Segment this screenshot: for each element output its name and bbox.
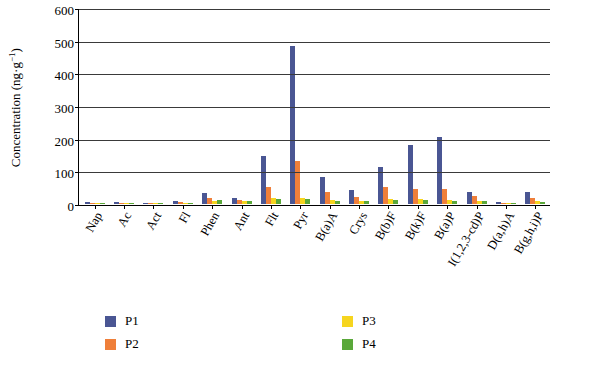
x-tick-label: B(b)F xyxy=(373,210,399,242)
y-axis-title-exponent: −1 xyxy=(6,52,16,62)
legend-label: P4 xyxy=(362,336,376,352)
x-label-cell: Act xyxy=(138,208,167,300)
y-tick-label: 600 xyxy=(55,4,75,17)
legend-item: P2 xyxy=(105,336,139,352)
x-tick-label: Act xyxy=(144,210,164,232)
gridline xyxy=(79,9,550,10)
bar xyxy=(511,203,516,204)
x-tick-label: Crys xyxy=(347,210,370,237)
legend-swatch xyxy=(105,316,116,327)
y-tick-mark xyxy=(75,107,79,108)
y-tick-mark xyxy=(75,140,79,141)
plot-area: 0100200300400500600 xyxy=(78,10,550,206)
legend-swatch xyxy=(342,316,353,327)
bar xyxy=(364,201,369,204)
bar xyxy=(247,201,252,204)
bar xyxy=(188,203,193,204)
y-tick-mark xyxy=(75,205,79,206)
bar xyxy=(540,202,545,204)
y-tick-label: 0 xyxy=(68,200,75,213)
gridline xyxy=(79,107,550,108)
x-label-cell: Fl xyxy=(167,208,196,300)
y-tick-mark xyxy=(75,172,79,173)
y-tick-mark xyxy=(75,74,79,75)
x-label-cell: Flt xyxy=(256,208,285,300)
x-label-cell: Nap xyxy=(79,208,108,300)
legend-swatch xyxy=(342,339,353,350)
y-axis-title: Concentration (ng·g−1) xyxy=(2,0,28,215)
bar xyxy=(158,203,163,204)
x-label-cell: Ac xyxy=(108,208,137,300)
bar xyxy=(276,199,281,204)
gridline xyxy=(79,74,550,75)
x-tick-label: B(a)A xyxy=(314,210,340,243)
gridline xyxy=(79,140,550,141)
bar xyxy=(335,201,340,204)
x-label-cell: Pyr xyxy=(285,208,314,300)
y-axis-title-text: Concentration (ng·g xyxy=(8,62,23,167)
chart-legend: P1P2P3P4 xyxy=(105,313,525,359)
x-label-cell: B(k)F xyxy=(403,208,432,300)
x-label-cell: Crys xyxy=(344,208,373,300)
bar xyxy=(129,203,134,204)
legend-label: P3 xyxy=(362,313,376,329)
x-tick-label: B(a)P xyxy=(432,210,457,242)
y-tick-mark xyxy=(75,9,79,10)
x-label-cell: B(a)A xyxy=(315,208,344,300)
legend-swatch xyxy=(105,339,116,350)
plot-area-wrapper: 0100200300400500600 xyxy=(78,10,550,206)
legend-label: P2 xyxy=(125,336,139,352)
bar xyxy=(100,203,105,204)
gridline xyxy=(79,172,550,173)
y-axis-title-tail: ) xyxy=(8,48,23,52)
y-tick-mark xyxy=(75,42,79,43)
x-tick-label: Phen xyxy=(199,210,222,238)
x-tick-label: Pyr xyxy=(291,210,311,231)
bar xyxy=(393,200,398,204)
bar xyxy=(305,199,310,204)
y-tick-label: 500 xyxy=(55,36,75,49)
x-label-cell: D(a,h)A xyxy=(491,208,520,300)
bar xyxy=(482,201,487,204)
x-tick-label: B(k)F xyxy=(403,210,429,242)
chart-figure: Concentration (ng·g−1) 01002003004005006… xyxy=(0,0,589,367)
x-label-cell: Ant xyxy=(226,208,255,300)
x-tick-label: Fl xyxy=(177,210,193,225)
x-tick-label: Ac xyxy=(116,210,134,229)
y-tick-label: 200 xyxy=(55,134,75,147)
bar xyxy=(217,200,222,204)
y-tick-label: 400 xyxy=(55,69,75,82)
legend-item: P4 xyxy=(342,336,376,352)
gridline xyxy=(79,42,550,43)
x-label-cell: B(b)F xyxy=(373,208,402,300)
x-tick-label: Flt xyxy=(263,210,281,228)
x-tick-label: Nap xyxy=(83,210,104,234)
x-label-cell: Phen xyxy=(197,208,226,300)
legend-item: P3 xyxy=(342,313,376,329)
y-tick-label: 300 xyxy=(55,102,75,115)
legend-item: P1 xyxy=(105,313,139,329)
x-tick-label: Ant xyxy=(232,210,252,232)
bar xyxy=(423,200,428,204)
bar xyxy=(452,201,457,204)
legend-label: P1 xyxy=(125,313,139,329)
x-label-cell: B(g,h,i)P xyxy=(521,208,550,300)
x-label-cell: I(1,2,3-cd)P xyxy=(462,208,491,300)
y-tick-label: 100 xyxy=(55,167,75,180)
x-axis-labels: NapAcActFlPhenAntFltPyrB(a)ACrysB(b)FB(k… xyxy=(79,208,550,300)
